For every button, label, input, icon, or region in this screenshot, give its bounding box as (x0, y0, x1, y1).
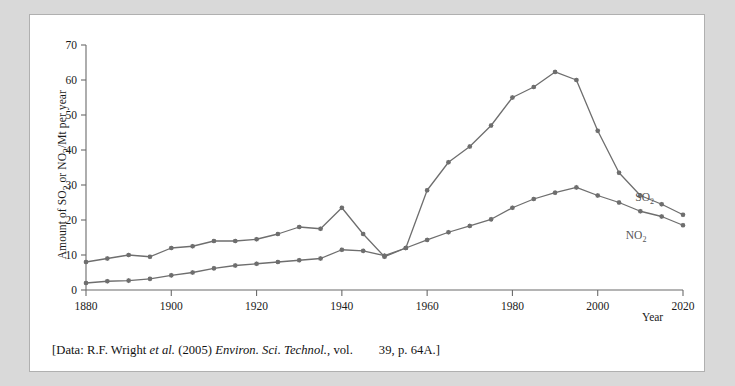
caption-journal: Environ. Sci. Technol. (215, 343, 327, 357)
data-point-core-so2 (105, 257, 109, 261)
data-point-core-no2 (383, 254, 387, 258)
data-point-core-no2 (319, 257, 323, 261)
caption-suffix-a: , vol. (327, 343, 353, 357)
data-point-core-so2 (255, 237, 259, 241)
data-point-core-no2 (681, 223, 685, 227)
data-point-core-no2 (297, 258, 301, 262)
data-point-core-no2 (84, 281, 88, 285)
data-point-core-no2 (596, 194, 600, 198)
y-tick-label: 60 (66, 74, 78, 86)
data-point-core-no2 (425, 238, 429, 242)
x-tick-label: 1980 (501, 300, 524, 312)
series-inline-labels: SO2NO2 (626, 191, 654, 245)
data-point-core-so2 (511, 96, 515, 100)
data-point-core-so2 (340, 206, 344, 210)
data-point-core-no2 (660, 215, 664, 219)
data-point-core-so2 (297, 225, 301, 229)
data-point-core-so2 (276, 232, 280, 236)
y-tick-label: 0 (71, 284, 77, 296)
data-point-core-so2 (660, 202, 664, 206)
y-tick-label: 70 (66, 39, 78, 51)
data-point-core-so2 (212, 239, 216, 243)
caption-etal: et al. (150, 343, 175, 357)
data-point-core-no2 (127, 279, 131, 283)
data-point-core-no2 (361, 249, 365, 253)
data-point-core-no2 (532, 197, 536, 201)
data-point-core-no2 (212, 266, 216, 270)
data-point-core-so2 (233, 239, 237, 243)
y-tick-label: 20 (66, 214, 78, 226)
data-point-core-so2 (617, 171, 621, 175)
data-point-core-no2 (638, 209, 642, 213)
data-point-core-so2 (596, 129, 600, 133)
data-point-core-so2 (468, 145, 472, 149)
figure-caption: [Data: R.F. Wright et al. (2005) Environ… (52, 343, 440, 358)
data-point-core-so2 (447, 160, 451, 164)
data-point-core-no2 (340, 248, 344, 252)
data-point-core-so2 (574, 78, 578, 82)
data-point-core-no2 (276, 260, 280, 264)
data-point-core-no2 (489, 217, 493, 221)
y-tick-label: 40 (66, 144, 78, 156)
series-label-so2: SO2 (635, 191, 654, 206)
caption-suffix-b: 39, p. 64A.] (379, 343, 440, 357)
data-point-core-so2 (127, 253, 131, 257)
data-point-core-so2 (425, 188, 429, 192)
figure-plot-area: Amount of SO2 or NO2/Mt per year 0102030… (30, 15, 706, 335)
data-point-core-so2 (553, 70, 557, 74)
caption-prefix: [Data: R.F. Wright (52, 343, 150, 357)
y-axis-ticks: 010203040506070 (66, 39, 87, 296)
x-tick-label: 1880 (75, 300, 98, 312)
data-point-core-no2 (233, 264, 237, 268)
data-point-core-no2 (105, 279, 109, 283)
data-point-core-no2 (169, 273, 173, 277)
data-point-core-no2 (148, 277, 152, 281)
series-label-no2: NO2 (626, 229, 647, 244)
series-line-no2 (86, 187, 683, 283)
data-point-core-so2 (361, 232, 365, 236)
data-series-group (83, 69, 685, 285)
line-chart: 010203040506070 188019001920194019601980… (30, 15, 706, 335)
data-point-core-so2 (84, 260, 88, 264)
data-point-core-so2 (532, 85, 536, 89)
page-background: Amount of SO2 or NO2/Mt per year 0102030… (0, 0, 735, 386)
y-tick-label: 30 (66, 179, 78, 191)
x-axis-ticks: 18801900192019401960198020002020 (75, 290, 695, 312)
x-tick-label: 1940 (330, 300, 353, 312)
series-line-so2 (86, 72, 683, 262)
data-point-core-no2 (617, 201, 621, 205)
caption-mid: (2005) (175, 343, 215, 357)
data-point-core-no2 (553, 191, 557, 195)
data-point-core-so2 (489, 124, 493, 128)
y-tick-label: 50 (66, 109, 78, 121)
data-point-core-so2 (191, 244, 195, 248)
data-point-core-no2 (574, 186, 578, 190)
x-tick-label: 1960 (416, 300, 439, 312)
data-point-core-so2 (319, 227, 323, 231)
x-tick-label: 1900 (160, 300, 183, 312)
data-point-core-no2 (255, 262, 259, 266)
data-point-core-no2 (447, 230, 451, 234)
x-tick-label: 2020 (672, 300, 695, 312)
data-point-core-so2 (681, 213, 685, 217)
data-point-core-no2 (191, 271, 195, 275)
data-point-core-so2 (169, 246, 173, 250)
x-tick-label: 1920 (245, 300, 268, 312)
data-point-core-no2 (404, 246, 408, 250)
data-point-core-so2 (148, 255, 152, 259)
x-axis-title: Year (642, 311, 663, 323)
data-point-core-no2 (468, 224, 472, 228)
data-point-core-no2 (511, 206, 515, 210)
x-tick-label: 2000 (586, 300, 609, 312)
figure-card: Amount of SO2 or NO2/Mt per year 0102030… (29, 14, 705, 372)
y-tick-label: 10 (66, 249, 78, 261)
